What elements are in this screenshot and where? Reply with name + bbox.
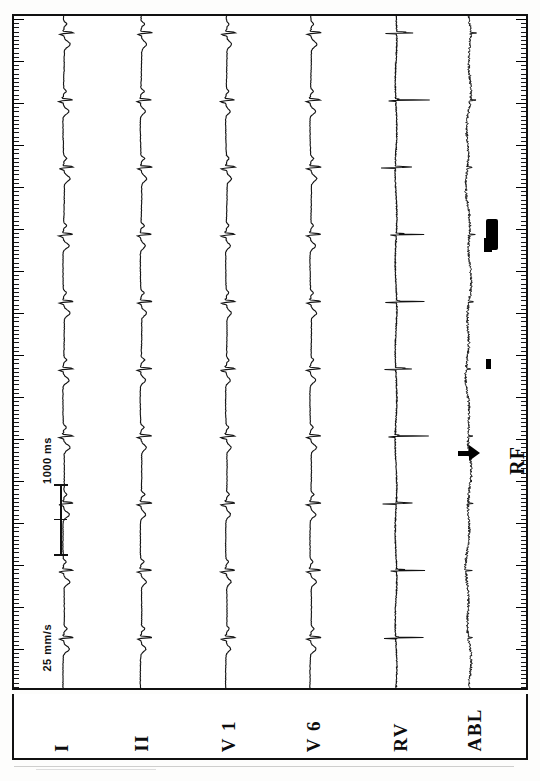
- trace-frame: 25 mm/s 1000 ms RF: [12, 14, 528, 690]
- waveform-lead-II: [137, 16, 152, 688]
- lead-label-I: I: [52, 743, 71, 752]
- abl-noise-burst-tail: [484, 238, 492, 252]
- waveform-lead-ABL: [464, 16, 476, 688]
- scan-artifact-line: [14, 766, 514, 767]
- rf-onset-label: RF: [506, 446, 529, 475]
- rf-arrow-icon: [458, 445, 480, 461]
- lead-label-V1: V 1: [219, 720, 238, 752]
- scan-artifact-line-2: [36, 769, 156, 770]
- waveform-lead-I: [59, 16, 74, 688]
- abl-noise-burst-small: [486, 359, 491, 369]
- ecg-strip-page: 25 mm/s 1000 ms RF I II V 1 V 6 RV ABL: [0, 0, 540, 781]
- lead-label-RV: RV: [391, 722, 410, 752]
- arrow-head: [469, 445, 480, 461]
- lead-label-ABL: ABL: [465, 708, 484, 752]
- waveform-canvas: [14, 16, 526, 688]
- time-interval-label: 1000 ms: [41, 437, 53, 484]
- paper-speed-label: 25 mm/s: [41, 624, 53, 672]
- waveform-lead-V1: [221, 16, 236, 688]
- caliper-mid-tick: [54, 519, 67, 520]
- lead-label-V6: V 6: [304, 720, 323, 752]
- lead-label-strip: I II V 1 V 6 RV ABL: [12, 694, 528, 760]
- waveform-lead-RV: [381, 16, 430, 688]
- waveform-lead-V6: [306, 16, 321, 688]
- lead-label-II: II: [132, 734, 151, 752]
